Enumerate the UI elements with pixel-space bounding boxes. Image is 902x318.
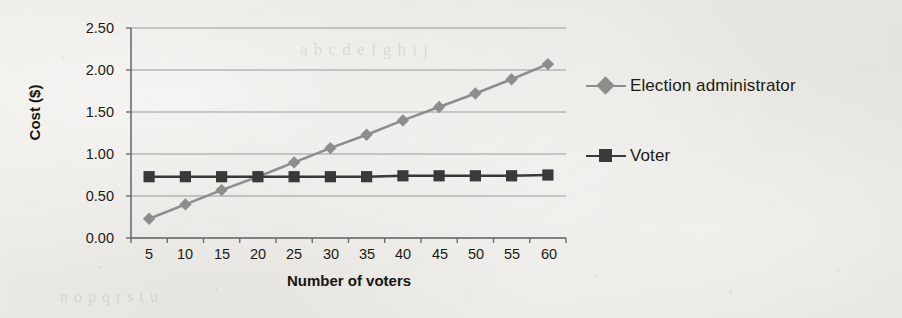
data-point [324, 142, 336, 154]
gridlines [131, 28, 566, 238]
data-point [289, 171, 300, 182]
square-marker-icon [586, 148, 626, 164]
data-point [143, 213, 155, 225]
data-point [542, 169, 553, 180]
data-point [252, 171, 263, 182]
legend-label: Voter [630, 146, 670, 166]
data-point [216, 171, 227, 182]
data-point [397, 170, 408, 181]
data-point [397, 114, 409, 126]
data-point [542, 58, 554, 70]
series-election-administrator [143, 58, 554, 225]
data-point [325, 171, 336, 182]
data-point [179, 198, 191, 210]
data-point [144, 171, 155, 182]
series-voter [144, 169, 554, 182]
data-point [469, 87, 481, 99]
diamond-marker-icon [586, 78, 626, 94]
legend-item-election-administrator[interactable]: Election administrator [586, 76, 796, 96]
line-chart: Cost ($) Number of voters 2.50 2.00 1.50… [0, 0, 902, 318]
legend-item-voter[interactable]: Voter [586, 146, 670, 166]
data-point [505, 73, 517, 85]
legend-label: Election administrator [630, 76, 796, 96]
data-point [288, 156, 300, 168]
data-point [470, 170, 481, 181]
data-point [506, 170, 517, 181]
data-point [215, 184, 227, 196]
data-series-layer [143, 58, 554, 225]
data-point [433, 101, 445, 113]
data-point [180, 171, 191, 182]
data-point [360, 129, 372, 141]
axis-lines [131, 28, 566, 238]
plot-area [0, 0, 902, 318]
scanned-chart-page: a b c d e f g h i j n o p q r s t u Cost… [0, 0, 902, 318]
data-point [361, 171, 372, 182]
data-point [434, 170, 445, 181]
